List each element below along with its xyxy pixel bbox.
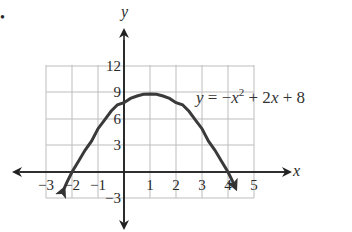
y-tick-labels: 12 9 6 3 −3 — [105, 58, 121, 206]
svg-text:−3: −3 — [38, 177, 54, 193]
svg-text:3: 3 — [198, 177, 206, 193]
x-tick-labels: −3 −2 −1 1 2 3 4 5 — [38, 177, 258, 193]
svg-text:−1: −1 — [90, 177, 106, 193]
x-axis-label: x — [292, 162, 300, 179]
svg-text:3: 3 — [114, 137, 122, 153]
svg-text:12: 12 — [106, 58, 121, 74]
parabola-graph: −3 −2 −1 1 2 3 4 5 12 9 6 3 −3 y x y = −… — [0, 0, 352, 232]
svg-text:4: 4 — [224, 177, 232, 193]
equation-label: y = −x2 + 2x + 8 — [194, 86, 305, 107]
svg-text:−3: −3 — [105, 190, 121, 206]
svg-text:2: 2 — [172, 177, 180, 193]
y-axis-label: y — [119, 3, 129, 21]
svg-text:9: 9 — [114, 84, 122, 100]
svg-text:6: 6 — [114, 111, 122, 127]
svg-text:−2: −2 — [64, 177, 80, 193]
svg-text:5: 5 — [250, 177, 258, 193]
svg-text:1: 1 — [146, 177, 154, 193]
